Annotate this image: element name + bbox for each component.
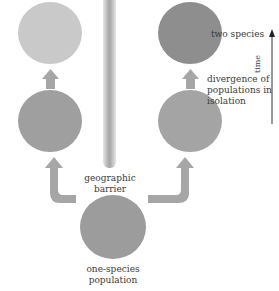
one-species-population-label: one-species population <box>78 264 148 286</box>
arrow-right-up-icon <box>182 69 199 89</box>
time-axis-label: time <box>252 55 263 73</box>
barrier-line-1: geographic <box>80 173 140 184</box>
arrow-left-up-icon <box>42 69 59 89</box>
divergence-line-2: populations in <box>207 85 272 96</box>
arrow-bottom-right-icon <box>148 157 194 203</box>
arrow-bottom-left-icon <box>45 157 76 203</box>
origin-line-1: one-species <box>78 264 148 275</box>
barrier-line-2: barrier <box>80 184 140 195</box>
divergence-line-3: isolation <box>207 96 272 107</box>
divergence-label: divergence of populations in isolation <box>207 74 272 107</box>
divergence-line-1: divergence of <box>207 74 272 85</box>
arrows-layer <box>0 0 279 291</box>
two-species-label: two species <box>211 29 264 40</box>
geographic-barrier-label: geographic barrier <box>80 173 140 195</box>
origin-line-2: population <box>78 275 148 286</box>
